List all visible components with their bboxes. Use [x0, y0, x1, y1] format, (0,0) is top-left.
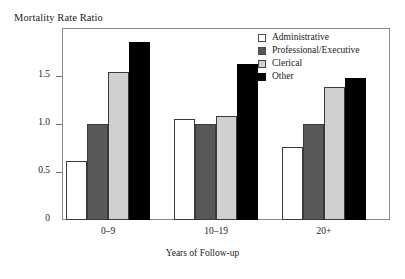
bar: [345, 78, 366, 220]
bar: [237, 64, 258, 220]
y-axis-tick-label: 1.5: [38, 69, 50, 79]
bar: [195, 124, 216, 220]
legend-label: Clerical: [272, 59, 302, 69]
x-axis-category-label: 20+: [279, 226, 369, 236]
y-axis-tick-label: 1.0: [38, 117, 50, 127]
legend-label: Professional/Executive: [272, 46, 360, 56]
legend-swatch-icon: [258, 47, 266, 55]
bar: [282, 147, 303, 220]
bar: [174, 119, 195, 220]
bar: [324, 87, 345, 220]
chart-figure: Mortality Rate Ratio 00.51.01.5 0–910–19…: [0, 0, 405, 279]
y-axis-tick-label: 0.5: [38, 165, 50, 175]
legend-item: Other: [258, 71, 360, 83]
chart-title: Mortality Rate Ratio: [14, 12, 103, 23]
legend-label: Other: [272, 72, 294, 82]
x-axis-category-label: 10–19: [171, 226, 261, 236]
legend-swatch-icon: [258, 60, 266, 68]
legend-item: Professional/Executive: [258, 45, 360, 57]
chart-legend: AdministrativeProfessional/ExecutiveCler…: [258, 32, 360, 83]
bar: [129, 42, 150, 220]
bar: [303, 124, 324, 220]
bar: [66, 161, 87, 220]
bar-group: [66, 28, 150, 220]
bar: [216, 116, 237, 220]
x-axis-category-label: 0–9: [63, 226, 153, 236]
bar: [108, 72, 129, 220]
bar-group: [174, 28, 258, 220]
legend-item: Clerical: [258, 58, 360, 70]
legend-swatch-icon: [258, 34, 266, 42]
y-axis-tick-label: 0: [45, 213, 50, 223]
bar: [87, 124, 108, 220]
legend-item: Administrative: [258, 32, 360, 44]
legend-swatch-icon: [258, 73, 266, 81]
legend-label: Administrative: [272, 33, 329, 43]
x-axis-title: Years of Follow-up: [0, 248, 405, 258]
